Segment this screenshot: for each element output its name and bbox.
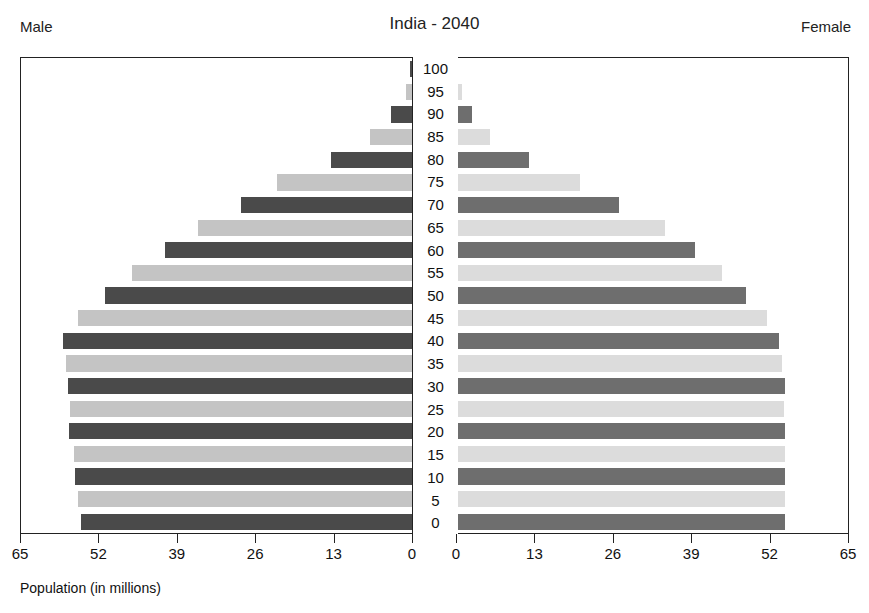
- male-bar-age-55: [132, 265, 412, 281]
- bar-row: [457, 375, 848, 398]
- bar-row: [457, 262, 848, 285]
- female-bar-age-30: [457, 378, 785, 394]
- female-bar-age-85: [457, 129, 490, 145]
- male-axis-tick: [177, 534, 178, 543]
- age-label-10: 10: [414, 466, 457, 489]
- female-bar-age-50: [457, 287, 746, 303]
- bar-row: [21, 330, 412, 353]
- female-bar-age-60: [457, 242, 695, 258]
- bar-row: [457, 420, 848, 443]
- page-title: India - 2040: [0, 14, 869, 34]
- female-bar-age-35: [457, 355, 782, 371]
- male-bar-age-50: [105, 287, 412, 303]
- male-axis-tick-label-26: 26: [247, 545, 264, 562]
- bar-row: [21, 194, 412, 217]
- age-label-70: 70: [414, 193, 457, 216]
- female-bar-age-65: [457, 220, 665, 236]
- age-label-40: 40: [414, 330, 457, 353]
- age-label-80: 80: [414, 148, 457, 171]
- male-axis-tick: [98, 534, 99, 543]
- female-axis-tick: [613, 534, 614, 543]
- bar-row: [457, 488, 848, 511]
- bar-row: [457, 465, 848, 488]
- age-label-65: 65: [414, 216, 457, 239]
- age-label-55: 55: [414, 261, 457, 284]
- age-label-5: 5: [414, 489, 457, 512]
- female-bar-rows: [457, 58, 848, 533]
- male-axis-tick: [334, 534, 335, 543]
- bar-row: [21, 81, 412, 104]
- male-bar-age-5: [78, 491, 412, 507]
- male-bar-age-35: [66, 355, 412, 371]
- male-axis-tick-label-65: 65: [12, 545, 29, 562]
- age-label-60: 60: [414, 239, 457, 262]
- female-bar-age-10: [457, 468, 785, 484]
- age-label-30: 30: [414, 375, 457, 398]
- female-axis-tick-label-65: 65: [840, 545, 857, 562]
- male-bar-age-30: [68, 378, 412, 394]
- male-bar-rows: [21, 58, 412, 533]
- female-bar-age-20: [457, 423, 785, 439]
- bar-row: [457, 171, 848, 194]
- female-bar-age-80: [457, 152, 529, 168]
- population-pyramid-chart: Male India - 2040 Female 100959085807570…: [0, 0, 869, 613]
- age-label-35: 35: [414, 352, 457, 375]
- male-bar-age-85: [370, 129, 412, 145]
- bar-row: [21, 216, 412, 239]
- male-bar-age-65: [198, 220, 412, 236]
- bar-row: [457, 511, 848, 534]
- male-axis-tick-label-39: 39: [168, 545, 185, 562]
- bar-row: [21, 239, 412, 262]
- male-bar-age-40: [63, 333, 412, 349]
- male-bar-age-10: [75, 468, 412, 484]
- bar-row: [21, 443, 412, 466]
- male-bar-age-80: [331, 152, 412, 168]
- female-axis-tick: [691, 534, 692, 543]
- age-label-20: 20: [414, 421, 457, 444]
- female-bar-age-45: [457, 310, 767, 326]
- male-bar-age-70: [241, 197, 412, 213]
- bar-row: [457, 330, 848, 353]
- age-label-95: 95: [414, 80, 457, 103]
- bar-row: [457, 307, 848, 330]
- age-label-45: 45: [414, 307, 457, 330]
- female-axis-tick: [848, 534, 849, 543]
- male-axis-tick: [255, 534, 256, 543]
- bar-row: [21, 284, 412, 307]
- bar-row: [457, 126, 848, 149]
- age-label-90: 90: [414, 102, 457, 125]
- bar-row: [457, 284, 848, 307]
- female-bar-age-75: [457, 174, 580, 190]
- bar-row: [457, 239, 848, 262]
- bar-row: [21, 103, 412, 126]
- bar-row: [457, 58, 848, 81]
- female-axis-tick-label-52: 52: [761, 545, 778, 562]
- bar-row: [457, 194, 848, 217]
- female-bar-age-5: [457, 491, 785, 507]
- male-bar-age-90: [391, 106, 412, 122]
- female-axis-label: Female: [801, 18, 851, 35]
- bar-row: [21, 58, 412, 81]
- bar-row: [457, 103, 848, 126]
- female-bar-age-15: [457, 446, 785, 462]
- male-bar-age-15: [74, 446, 412, 462]
- age-label-0: 0: [414, 511, 457, 534]
- female-bar-age-25: [457, 401, 784, 417]
- male-bar-age-95: [406, 84, 412, 100]
- bar-row: [21, 511, 412, 534]
- age-label-50: 50: [414, 284, 457, 307]
- bar-row: [21, 397, 412, 420]
- bar-row: [21, 307, 412, 330]
- male-axis-tick: [412, 534, 413, 543]
- male-bar-age-0: [81, 514, 412, 530]
- bar-row: [21, 488, 412, 511]
- male-x-axis: 65523926130: [20, 534, 413, 574]
- age-axis: 1009590858075706560555045403530252015105…: [413, 57, 458, 534]
- bar-row: [457, 81, 848, 104]
- female-axis-tick-label-26: 26: [604, 545, 621, 562]
- bar-row: [457, 397, 848, 420]
- female-axis-tick: [534, 534, 535, 543]
- age-label-85: 85: [414, 125, 457, 148]
- female-axis-tick-label-0: 0: [452, 545, 460, 562]
- male-axis-tick-label-13: 13: [325, 545, 342, 562]
